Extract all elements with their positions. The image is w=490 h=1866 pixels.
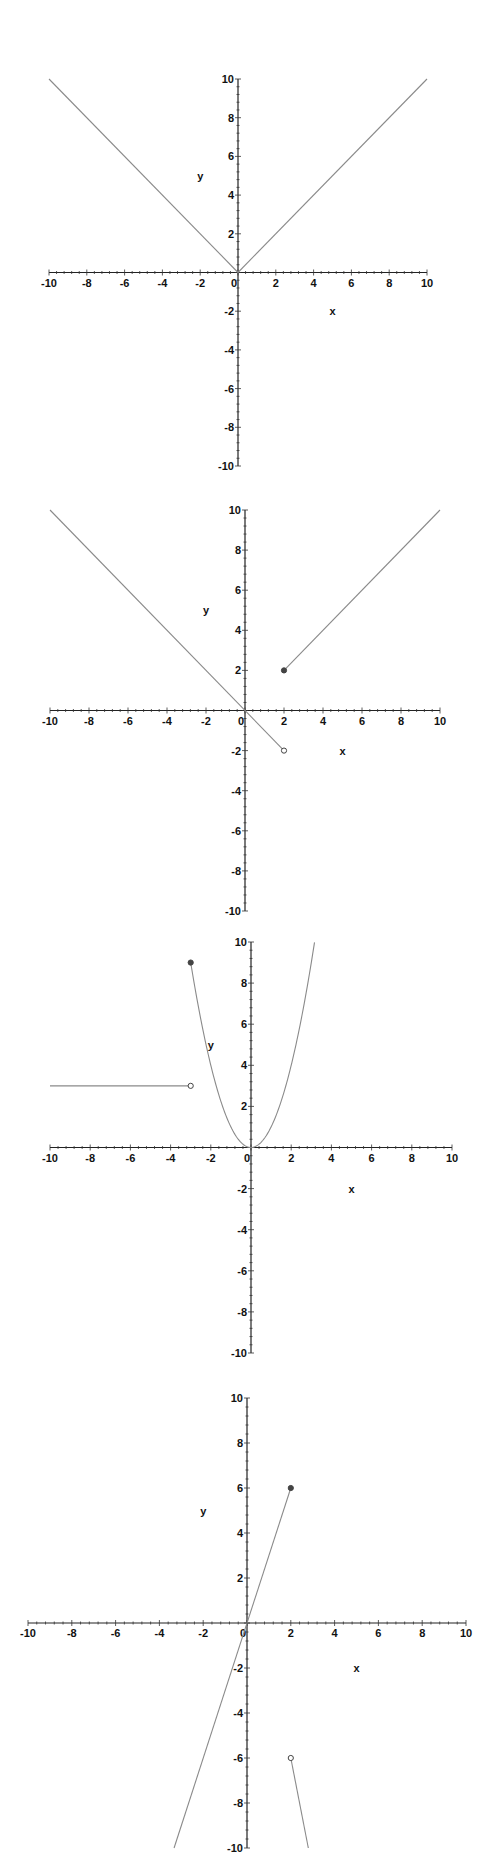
x-tick-label: -8 [67,1627,77,1639]
x-tick-label: 4 [332,1627,339,1639]
open-endpoint-marker [188,1083,193,1088]
x-tick-label: 2 [288,1627,294,1639]
x-tick-label: -6 [120,277,130,289]
x-axis-title: x [353,1662,360,1674]
y-axis-title: y [197,170,204,182]
series-line [238,79,427,273]
plot-2-piecewise-linear: -10-8-6-4-20246810-10-8-6-4-2246810xy [0,480,490,930]
y-tick-label: -10 [225,905,241,917]
series-line [291,1758,309,1848]
plot-3-constant-and-parabola: -10-8-6-4-20246810-10-8-6-4-2246810xy [0,930,490,1390]
x-tick-label: -4 [166,1152,177,1164]
y-tick-label: 2 [235,664,241,676]
x-tick-label: -8 [84,715,94,727]
x-tick-label: 8 [419,1627,425,1639]
x-tick-label: 4 [311,277,318,289]
x-axis-title: x [348,1183,355,1195]
x-tick-label: -2 [206,1152,216,1164]
x-tick-label: 0 [244,1152,250,1164]
x-tick-label: 6 [348,277,354,289]
x-tick-label: 10 [434,715,446,727]
x-axis-title: x [329,305,336,317]
y-tick-label: 8 [228,112,234,124]
y-axis-title: y [208,1039,215,1051]
x-tick-label: -2 [198,1627,208,1639]
y-tick-label: 8 [241,977,247,989]
y-tick-label: 2 [237,1572,243,1584]
open-endpoint-marker [281,748,286,753]
x-tick-label: 10 [460,1627,472,1639]
y-tick-label: 4 [237,1527,244,1539]
x-tick-label: -4 [155,1627,166,1639]
y-tick-label: 10 [229,504,241,516]
x-tick-label: -6 [126,1152,136,1164]
x-tick-label: 2 [288,1152,294,1164]
x-axis-title: x [339,745,346,757]
x-tick-label: 6 [375,1627,381,1639]
series-line [284,510,440,670]
closed-endpoint-marker [288,1485,293,1490]
x-tick-label: 4 [328,1152,335,1164]
y-tick-label: -2 [237,1183,247,1195]
y-tick-label: -8 [224,421,234,433]
axes: -10-8-6-4-20246810-10-8-6-4-2246810xy [20,1392,472,1854]
x-tick-label: -2 [195,277,205,289]
y-tick-label: -10 [231,1347,247,1359]
plot-canvas: -10-8-6-4-20246810-10-8-6-4-2246810xy [0,0,490,480]
y-tick-label: -8 [233,1797,243,1809]
y-tick-label: 4 [235,624,242,636]
x-tick-label: 8 [409,1152,415,1164]
series-group [50,942,315,1147]
x-tick-label: -6 [123,715,133,727]
x-tick-label: 0 [231,277,237,289]
x-tick-label: 6 [369,1152,375,1164]
y-tick-label: 2 [241,1100,247,1112]
x-tick-label: -10 [41,277,57,289]
y-tick-label: -6 [224,383,234,395]
plot-canvas: -10-8-6-4-20246810-10-8-6-4-2246810xy [0,930,490,1390]
y-tick-label: 8 [237,1437,243,1449]
plot-1-abs-x: -10-8-6-4-20246810-10-8-6-4-2246810xy [0,0,490,480]
y-tick-label: -4 [224,344,235,356]
x-tick-label: -8 [82,277,92,289]
plot-canvas: -10-8-6-4-20246810-10-8-6-4-2246810xy [0,1390,490,1866]
closed-endpoint-marker [188,960,193,965]
y-tick-label: 4 [241,1059,248,1071]
x-tick-label: -2 [201,715,211,727]
x-tick-label: 10 [446,1152,458,1164]
x-tick-label: -4 [162,715,173,727]
x-tick-label: -10 [20,1627,36,1639]
y-tick-label: -6 [231,825,241,837]
y-tick-label: 6 [228,150,234,162]
series-line [49,79,238,273]
x-tick-label: -10 [42,1152,58,1164]
y-tick-label: -4 [237,1224,248,1236]
x-tick-label: 2 [273,277,279,289]
series-line [174,1488,291,1848]
y-axis-title: y [200,1505,207,1517]
x-tick-label: -8 [85,1152,95,1164]
x-tick-label: -4 [158,277,169,289]
y-tick-label: 6 [241,1018,247,1030]
x-tick-label: 8 [386,277,392,289]
y-tick-label: 10 [222,73,234,85]
y-tick-label: 2 [228,228,234,240]
y-tick-label: -4 [233,1707,244,1719]
y-tick-label: -2 [231,745,241,757]
y-tick-label: -10 [227,1842,243,1854]
x-tick-label: 0 [238,715,244,727]
y-tick-label: 8 [235,544,241,556]
y-tick-label: -2 [224,305,234,317]
y-tick-label: -10 [218,460,234,472]
y-tick-label: 6 [237,1482,243,1494]
plot-canvas: -10-8-6-4-20246810-10-8-6-4-2246810xy [0,480,490,930]
y-axis-title: y [203,604,210,616]
y-tick-label: 10 [235,936,247,948]
y-tick-label: 4 [228,189,235,201]
y-tick-label: -2 [233,1662,243,1674]
y-tick-label: -6 [237,1265,247,1277]
x-tick-label: 10 [421,277,433,289]
closed-endpoint-marker [281,668,286,673]
y-tick-label: 10 [231,1392,243,1404]
x-tick-label: 6 [359,715,365,727]
